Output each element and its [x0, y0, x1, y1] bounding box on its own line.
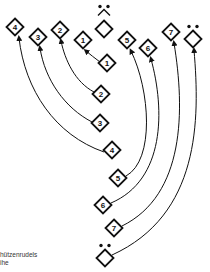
arrow-7 — [122, 43, 180, 226]
formation-diagram: 43215671234567 — [0, 0, 210, 272]
position-diamond: 5 — [119, 32, 136, 49]
position-diamond: 4 — [104, 142, 121, 159]
leader-diamond — [185, 25, 202, 48]
formation-nodes: 43215671234567 — [7, 5, 202, 267]
position-diamond: 7 — [106, 220, 123, 237]
diamond-icon — [96, 21, 113, 38]
leader-diamond — [96, 5, 113, 38]
leader-dot-icon — [195, 25, 198, 28]
position-number: 1 — [81, 36, 86, 45]
position-diamond: 6 — [95, 197, 112, 214]
position-diamond: 1 — [75, 32, 92, 49]
position-number: 4 — [13, 23, 18, 32]
position-number: 2 — [58, 26, 63, 35]
leader-dot-icon — [106, 5, 109, 8]
position-number: 2 — [99, 90, 104, 99]
diamond-icon — [97, 250, 114, 267]
arrow-2 — [61, 41, 94, 92]
position-diamond: 3 — [30, 29, 47, 46]
position-number: 5 — [116, 174, 121, 183]
position-number: 1 — [105, 59, 110, 68]
position-diamond: 4 — [7, 19, 24, 36]
position-diamond: 2 — [52, 22, 69, 39]
caption-line-2: ihe — [0, 259, 9, 267]
position-number: 3 — [98, 119, 103, 128]
position-diamond: 6 — [140, 40, 157, 57]
position-number: 7 — [112, 224, 117, 233]
leader-diamond — [97, 244, 114, 267]
leader-dot-icon — [98, 5, 101, 8]
arrow-1 — [86, 51, 100, 62]
position-number: 6 — [146, 44, 151, 53]
position-number: 5 — [125, 36, 130, 45]
chevron-icon — [98, 10, 110, 16]
position-number: 4 — [110, 146, 115, 155]
position-number: 6 — [101, 201, 106, 210]
position-diamond: 5 — [110, 170, 127, 187]
leader-dot-icon — [187, 25, 190, 28]
leader-dot-icon — [107, 244, 110, 247]
arrow-5 — [126, 51, 147, 176]
position-diamond: 2 — [93, 86, 110, 103]
position-number: 3 — [36, 33, 41, 42]
caption-line-1: hützenrudels — [0, 251, 37, 259]
position-number: 7 — [169, 28, 174, 37]
diamond-icon — [185, 31, 202, 48]
position-diamond: 1 — [99, 55, 116, 72]
position-diamond: 3 — [92, 115, 109, 132]
position-diamond: 7 — [163, 24, 180, 41]
leader-dot-icon — [99, 244, 102, 247]
